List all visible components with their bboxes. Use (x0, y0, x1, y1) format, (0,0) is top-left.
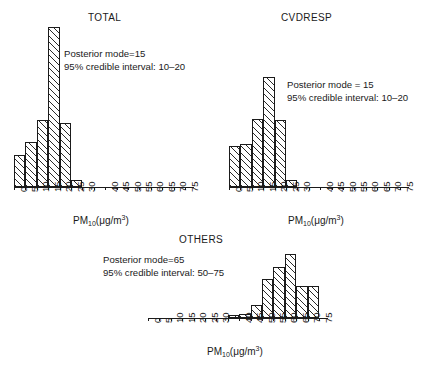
ticklabel-others-5: 5 (164, 318, 174, 323)
panel-cvdresp: CVDRESP Posterior mode = 15 95% credible… (221, 0, 443, 232)
ticklabel-cvdresp-60: 60 (370, 181, 380, 192)
ticklabel-total-40: 40 (110, 181, 120, 192)
x-axis-title-pm: PM (207, 346, 222, 357)
ticklabel-others-30: 30 (221, 312, 231, 323)
x-axis-title-close: ) (259, 346, 262, 357)
bar-cvdresp-20-25 (275, 120, 286, 187)
bar-cvdresp-10-15 (252, 119, 263, 187)
ticklabel-others-55: 55 (278, 312, 288, 323)
bar-total-0-5 (14, 155, 25, 187)
ticklabel-others-40: 40 (244, 312, 254, 323)
x-axis-title-units: (μg/m (311, 215, 337, 226)
ticklabel-others-45: 45 (255, 312, 265, 323)
ticklabel-others-20: 20 (198, 312, 208, 323)
ticklabel-others-15: 15 (187, 312, 197, 323)
ticklabel-total-65: 65 (167, 181, 177, 192)
ticklabel-cvdresp-5: 5 (245, 187, 255, 192)
ticklabel-others-0: 0 (153, 318, 163, 323)
ticklabel-total-15: 15 (53, 181, 63, 192)
ticklabel-cvdresp-30: 30 (302, 181, 312, 192)
bar-total-20-25 (60, 123, 71, 187)
plot-area-others (148, 254, 326, 318)
ticklabel-others-75: 75 (324, 312, 334, 323)
ticklabel-total-0: 0 (19, 187, 29, 192)
bar-group-others (148, 254, 326, 318)
ticklabel-total-5: 5 (30, 187, 40, 192)
x-axis-title-sub: 10 (303, 220, 311, 227)
x-axis-title-sub: 10 (222, 351, 230, 358)
x-axis-title-cvdresp: PM10(μg/m3) (288, 214, 344, 227)
panel-title-cvdresp: CVDRESP (281, 12, 332, 23)
bar-total-10-15 (37, 120, 48, 187)
panel-title-others: OTHERS (179, 234, 223, 245)
ticklabel-total-70: 70 (178, 181, 188, 192)
x-axis-title-others: PM10(μg/m3) (207, 345, 263, 358)
x-axis-title-pm: PM (73, 215, 88, 226)
x-axis-title-close: ) (340, 215, 343, 226)
x-axis-title-units: (μg/m (96, 215, 122, 226)
bar-group-total (14, 27, 192, 187)
ticklabel-cvdresp-40: 40 (325, 181, 335, 192)
ticklabel-total-45: 45 (121, 181, 131, 192)
bar-others-55-60 (273, 267, 284, 318)
ticklabel-total-60: 60 (155, 181, 165, 192)
ticklabel-cvdresp-25: 25 (291, 181, 301, 192)
x-axis-title-pm: PM (288, 215, 303, 226)
bar-total-15-20 (48, 27, 59, 187)
ticklabel-total-30: 30 (87, 181, 97, 192)
ticklabel-cvdresp-0: 0 (234, 187, 244, 192)
ticklabel-total-25: 25 (76, 181, 86, 192)
ticklabel-cvdresp-15: 15 (268, 181, 278, 192)
plot-area-cvdresp (229, 77, 407, 187)
panel-others: OTHERS Posterior mode=65 95% credible in… (110, 230, 360, 391)
bar-total-5-10 (25, 142, 36, 187)
ticklabel-cvdresp-70: 70 (393, 181, 403, 192)
figure-posterior-distributions: TOTAL Posterior mode=15 95% credible int… (0, 0, 443, 391)
ticklabel-cvdresp-20: 20 (279, 181, 289, 192)
ticklabel-total-75: 75 (190, 181, 200, 192)
x-axis-title-units: (μg/m (230, 346, 256, 357)
x-axis-title-close: ) (125, 215, 128, 226)
ticklabel-others-60: 60 (289, 312, 299, 323)
ticklabel-others-70: 70 (312, 312, 322, 323)
bar-cvdresp-5-10 (240, 144, 251, 187)
ticklabel-others-65: 65 (301, 312, 311, 323)
ticklabel-others-25: 25 (210, 312, 220, 323)
bar-others-60-65 (285, 254, 296, 318)
ticklabel-others-50: 50 (267, 312, 277, 323)
ticklabel-cvdresp-45: 45 (336, 181, 346, 192)
ticklabel-cvdresp-65: 65 (382, 181, 392, 192)
bar-cvdresp-15-20 (263, 77, 274, 187)
x-axis-title-total: PM10(μg/m3) (73, 214, 129, 227)
ticklabel-total-55: 55 (144, 181, 154, 192)
ticklabel-cvdresp-50: 50 (348, 181, 358, 192)
panel-title-total: TOTAL (88, 12, 121, 23)
ticklabel-total-10: 10 (41, 181, 51, 192)
bar-group-cvdresp (229, 77, 407, 187)
plot-area-total (14, 27, 192, 187)
ticklabel-total-50: 50 (133, 181, 143, 192)
panel-total: TOTAL Posterior mode=15 95% credible int… (0, 0, 222, 232)
bar-cvdresp-0-5 (229, 146, 240, 187)
ticklabel-cvdresp-55: 55 (359, 181, 369, 192)
ticklabel-cvdresp-10: 10 (256, 181, 266, 192)
x-axis-title-sub: 10 (88, 220, 96, 227)
ticklabel-cvdresp-75: 75 (405, 181, 415, 192)
ticklabel-total-20: 20 (64, 181, 74, 192)
ticklabel-others-10: 10 (175, 312, 185, 323)
